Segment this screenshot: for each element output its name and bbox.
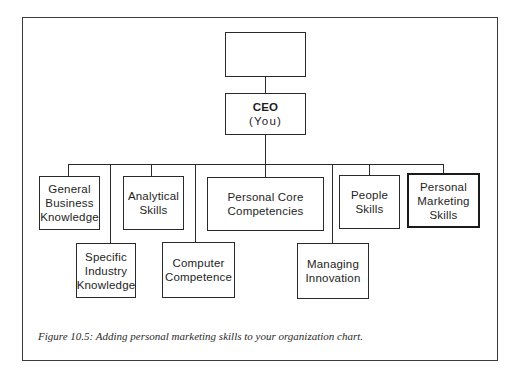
node-label: Specific Industry Knowledge xyxy=(77,250,136,292)
ceo-box: CEO (You) xyxy=(225,93,306,135)
node-personal-marketing-skills: Personal Marketing Skills xyxy=(407,173,480,228)
node-managing-innovation: Managing Innovation xyxy=(297,243,369,299)
node-personal-core-competencies: Personal Core Competencies xyxy=(207,177,324,231)
ceo-title: CEO xyxy=(253,100,279,114)
connector-core xyxy=(265,164,266,177)
connector-computer xyxy=(195,164,196,242)
node-label: Computer Competence xyxy=(165,256,232,284)
node-people-skills: People Skills xyxy=(339,175,400,229)
node-general-business-knowledge: General Business Knowledge xyxy=(39,176,100,230)
connector-managing xyxy=(332,164,333,243)
connector-marketing xyxy=(443,164,444,173)
node-label: General Business Knowledge xyxy=(40,182,99,224)
figure-caption: Figure 10.5: Adding personal marketing s… xyxy=(38,330,363,342)
node-label: Analytical Skills xyxy=(128,189,179,217)
node-label: People Skills xyxy=(351,188,388,216)
connector-people xyxy=(369,164,370,175)
connector-analytical xyxy=(151,164,152,176)
connector-specific xyxy=(110,164,111,243)
node-analytical-skills: Analytical Skills xyxy=(123,176,184,230)
node-label: Personal Marketing Skills xyxy=(417,180,469,222)
node-specific-industry-knowledge: Specific Industry Knowledge xyxy=(76,243,136,298)
node-computer-competence: Computer Competence xyxy=(162,242,235,298)
connector-bus xyxy=(68,164,444,165)
ceo-subtitle: (You) xyxy=(249,114,282,128)
connector-general xyxy=(68,164,69,176)
top-blank-box xyxy=(225,32,306,77)
node-label: Managing Innovation xyxy=(305,257,360,285)
node-label: Personal Core Competencies xyxy=(227,190,303,218)
connector-ceo-trunk xyxy=(265,134,266,164)
connector-top-to-ceo xyxy=(265,76,266,93)
